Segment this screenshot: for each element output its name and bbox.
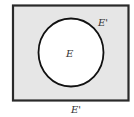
complement-label-inside: E' — [97, 17, 108, 28]
event-e-label: E — [65, 48, 74, 59]
venn-diagram: E E' E' — [0, 0, 134, 117]
complement-label-below: E' — [70, 104, 81, 115]
